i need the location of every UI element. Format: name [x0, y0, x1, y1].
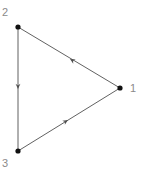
- edges-group: [18, 27, 120, 151]
- arrowhead-edge-3-to-1: [62, 118, 69, 125]
- node-3[interactable]: [15, 148, 20, 153]
- arrowheads-group: [16, 57, 76, 125]
- edge-1-to-2: [18, 27, 120, 88]
- graph-canvas: [0, 0, 144, 177]
- nodes-group: [15, 24, 122, 153]
- node-1[interactable]: [117, 85, 122, 90]
- node-2[interactable]: [15, 24, 20, 29]
- directed-graph-figure: 1 2 3: [0, 0, 144, 177]
- node-label-2: 2: [2, 7, 8, 18]
- node-label-1: 1: [130, 83, 136, 94]
- edge-3-to-1: [18, 88, 120, 151]
- node-label-3: 3: [2, 158, 8, 169]
